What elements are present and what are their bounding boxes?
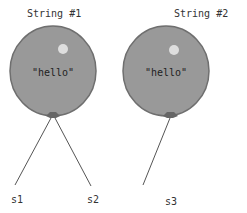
- variable-s3: s3: [165, 196, 177, 207]
- balloon-2: [123, 26, 209, 185]
- string-s2: [55, 118, 91, 186]
- balloon-1-value: "hello": [13, 67, 93, 78]
- balloon-1: [10, 26, 96, 186]
- balloon-1-title: String #1: [27, 8, 81, 19]
- balloon-2-title: String #2: [174, 8, 228, 19]
- variable-s2: s2: [87, 194, 99, 205]
- string-s3: [143, 118, 170, 185]
- variable-s1: s1: [11, 194, 23, 205]
- balloon-2-value: "hello": [126, 67, 206, 78]
- string-s1: [15, 118, 51, 185]
- diagram-canvas: [0, 0, 247, 213]
